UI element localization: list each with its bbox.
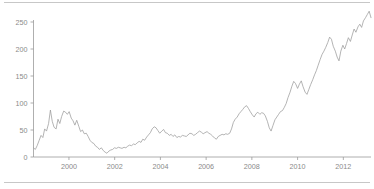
y-tick-label: 50 [20, 126, 28, 135]
y-axis: 050100150200250 [16, 18, 34, 162]
x-tick-label: 2000 [61, 162, 77, 171]
x-tick-label: 2012 [335, 162, 351, 171]
chart-svg: 050100150200250 200020022004200620082010… [0, 0, 374, 189]
y-tick-label: 200 [16, 45, 28, 54]
x-tick-label: 2006 [198, 162, 214, 171]
x-tick-label: 2004 [152, 162, 168, 171]
x-axis: 2000200220042006200820102012 [34, 157, 372, 171]
y-tick-label: 100 [16, 99, 28, 108]
x-tick-label: 2010 [290, 162, 306, 171]
series-group [34, 11, 372, 153]
series-line-value [34, 11, 372, 153]
y-tick-label: 250 [16, 18, 28, 27]
x-tick-label: 2002 [107, 162, 123, 171]
x-tick-label: 2008 [244, 162, 260, 171]
chart-figure: 050100150200250 200020022004200620082010… [0, 0, 374, 189]
y-tick-label: 150 [16, 72, 28, 81]
figure-rules [4, 3, 370, 183]
y-tick-label: 0 [24, 153, 28, 162]
